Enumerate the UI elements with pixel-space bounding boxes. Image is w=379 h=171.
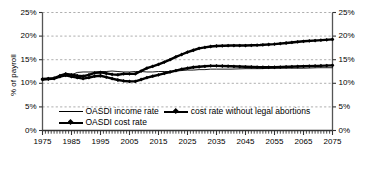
y-axis-right-tick-label: 5% (339, 103, 351, 111)
y-axis-right-tick-label: 20% (339, 32, 355, 40)
legend-line-icon (59, 107, 83, 116)
x-axis-tick-label: 2055 (259, 138, 291, 146)
x-axis-tick-label: 2065 (288, 138, 320, 146)
chart-legend: OASDI income ratecost rate without legal… (59, 106, 316, 128)
y-axis-left-tick-label: 0% (25, 127, 37, 135)
x-axis-tick-label: 1985 (56, 138, 88, 146)
y-axis-left-tick-label: 5% (25, 103, 37, 111)
y-axis-left-tick-label: 25% (20, 9, 36, 17)
legend-item[interactable]: OASDI cost rate (59, 117, 147, 128)
x-axis-tick-label: 2045 (230, 138, 262, 146)
y-axis-left-tick-label: 15% (20, 56, 36, 64)
x-axis-tick-label: 2035 (201, 138, 233, 146)
y-axis-right-tick-label: 10% (339, 79, 355, 87)
x-axis-tick-label: 2015 (143, 138, 175, 146)
y-axis-right-tick-label: 25% (339, 9, 355, 17)
legend-item-label: OASDI income rate (86, 106, 159, 117)
legend-line-marker-icon (59, 118, 83, 127)
y-axis-left-tick-label: 10% (20, 79, 36, 87)
x-axis-tick-label: 2025 (172, 138, 204, 146)
legend-row: OASDI cost rate (59, 117, 316, 128)
y-axis-right-tick-label: 0% (339, 127, 351, 135)
legend-line-marker-icon (164, 107, 188, 116)
legend-row: OASDI income ratecost rate without legal… (59, 106, 316, 117)
y-axis-right-tick-label: 15% (339, 56, 355, 64)
legend-item-label: cost rate without legal abortions (191, 106, 311, 117)
x-axis-tick-label: 1975 (27, 138, 59, 146)
x-axis-tick-label: 1995 (85, 138, 117, 146)
y-axis-title: % of payroll (9, 54, 18, 96)
legend-item-label: OASDI cost rate (86, 117, 147, 128)
x-axis-tick-label: 2075 (317, 138, 349, 146)
legend-item[interactable]: OASDI income rate (59, 106, 159, 117)
chart-container: % of payroll 0%5%10%15%20%25% 0%5%10%15%… (0, 0, 379, 171)
x-axis-tick-label: 2005 (114, 138, 146, 146)
y-axis-left-tick-label: 20% (20, 32, 36, 40)
legend-item[interactable]: cost rate without legal abortions (164, 106, 311, 117)
